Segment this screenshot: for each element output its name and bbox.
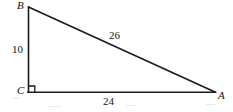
vertex-label-c: C [17, 85, 24, 96]
vertex-label-b: B [17, 0, 24, 11]
side-length-label-ca: 24 [103, 96, 114, 107]
side-ba-line [29, 7, 216, 92]
right-triangle-drawing [0, 0, 233, 112]
side-length-label-ba: 26 [109, 30, 120, 41]
geometry-figure: B C A 10 26 24 [0, 0, 233, 112]
right-angle-marker-icon [29, 86, 35, 92]
side-length-label-bc: 10 [12, 44, 23, 55]
vertex-label-a: A [218, 90, 225, 101]
